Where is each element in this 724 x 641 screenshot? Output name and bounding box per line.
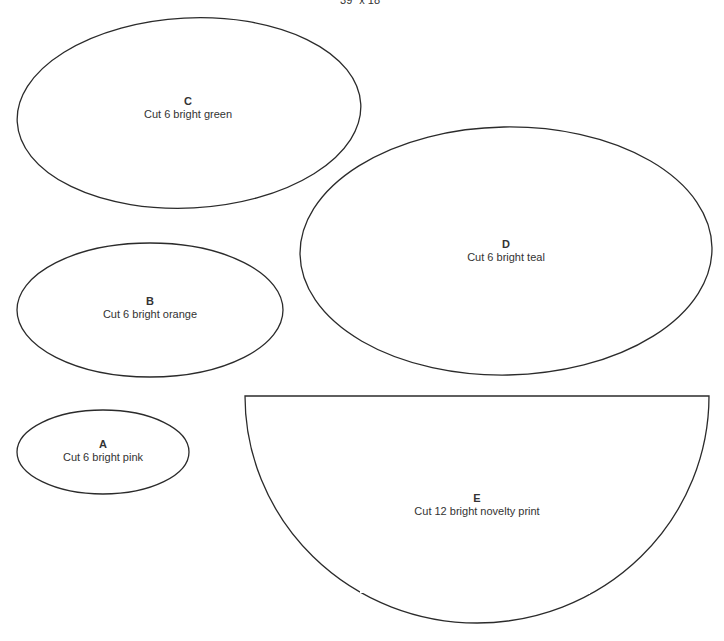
piece-e-notch-left bbox=[360, 590, 363, 593]
piece-letter: E bbox=[414, 492, 539, 505]
piece-letter: B bbox=[103, 295, 197, 308]
sheet-dimensions: 39" x 18" bbox=[0, 0, 724, 6]
piece-instruction: Cut 6 bright pink bbox=[63, 451, 143, 464]
pattern-sheet: 39" x 18" C Cut 6 bright green D Cut 6 b… bbox=[0, 0, 724, 641]
piece-c-label: C Cut 6 bright green bbox=[144, 95, 232, 121]
piece-instruction: Cut 6 bright teal bbox=[467, 251, 545, 264]
piece-a-label: A Cut 6 bright pink bbox=[63, 438, 143, 464]
piece-letter: C bbox=[144, 95, 232, 108]
piece-instruction: Cut 6 bright orange bbox=[103, 308, 197, 321]
piece-instruction: Cut 12 bright novelty print bbox=[414, 505, 539, 518]
piece-e-notch-right bbox=[587, 591, 590, 594]
piece-letter: D bbox=[467, 238, 545, 251]
piece-letter: A bbox=[63, 438, 143, 451]
piece-d-label: D Cut 6 bright teal bbox=[467, 238, 545, 264]
piece-e-label: E Cut 12 bright novelty print bbox=[414, 492, 539, 518]
piece-b-label: B Cut 6 bright orange bbox=[103, 295, 197, 321]
piece-instruction: Cut 6 bright green bbox=[144, 108, 232, 121]
